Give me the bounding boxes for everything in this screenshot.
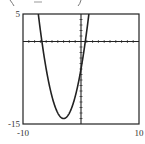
function-graph: 5-15-1010: [0, 0, 145, 144]
cut-off-header: [10, 0, 81, 6]
x-tick-label: -10: [17, 128, 29, 138]
header-paren-right: [78, 0, 81, 6]
x-tick-label: 10: [135, 128, 145, 138]
header-paren-left: [10, 0, 14, 6]
y-tick-label: 5: [16, 9, 21, 19]
